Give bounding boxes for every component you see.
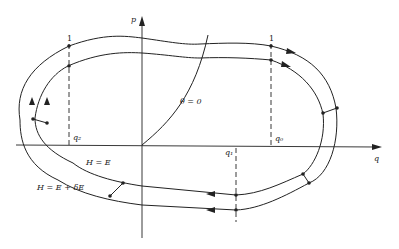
connector-right: [323, 108, 337, 113]
p-axis-label: p: [131, 15, 136, 24]
marker-1-right: 1: [269, 34, 274, 43]
arrow-right-outer-icon: [286, 48, 296, 54]
q-axis-label: q: [374, 154, 379, 163]
arrow-left-outer-icon: [206, 207, 215, 213]
theta-zero-curve: [142, 35, 208, 145]
connector-bottom-left: [110, 183, 123, 196]
q2-label: q₂: [73, 133, 81, 142]
q1-label: q₁: [225, 148, 233, 157]
arrow-up-inner-icon: [44, 97, 50, 105]
phase-space-diagram: p q θ = 0 H = E H = E + δE 1 1 q₂ q₀ q₁: [0, 0, 399, 249]
marker-1-left: 1: [67, 34, 72, 43]
q-axis: [16, 145, 378, 147]
q-axis-arrow-icon: [372, 144, 382, 150]
q0-label: q₀: [275, 134, 284, 143]
arrow-right-inner-icon: [281, 61, 291, 67]
inner-orbit-label: H = E: [85, 158, 111, 167]
p-axis-arrow-icon: [139, 16, 145, 26]
theta-zero-label: θ = 0: [180, 97, 202, 106]
arrow-up-outer-icon: [29, 97, 35, 105]
inner-orbit-curve: [35, 53, 323, 195]
outer-orbit-label: H = E + δE: [36, 183, 84, 192]
